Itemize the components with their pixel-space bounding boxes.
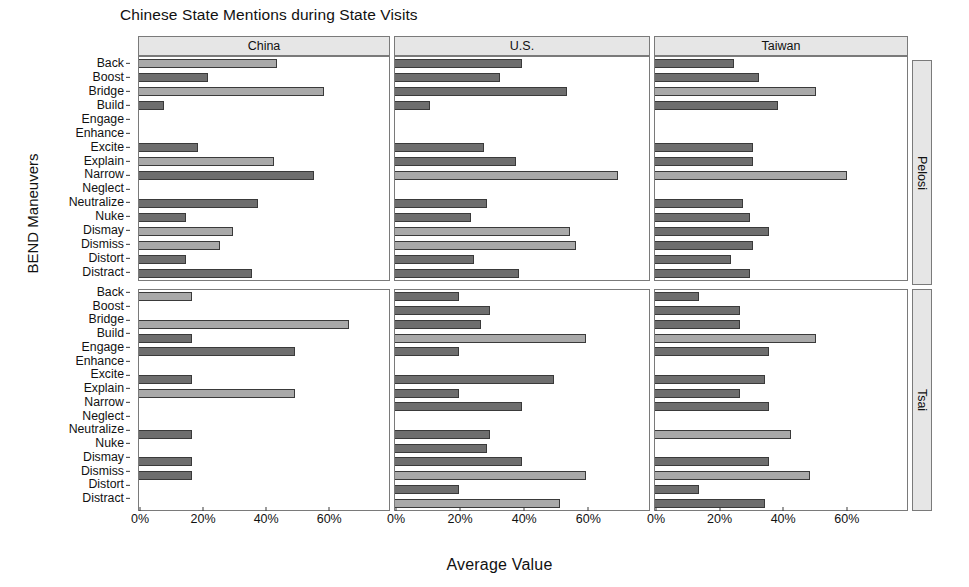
x-tick-mark [203,507,204,511]
y-tick-label: Bridge [88,313,124,325]
bar [395,375,554,384]
bar [139,241,220,250]
y-tick-labels-tsai: BackBoostBridgeBuildEngageEnhanceExciteE… [22,285,130,505]
x-tick-label: 40% [254,512,279,526]
y-tick-label: Neutralize [69,196,124,208]
y-tick-label: Excite [91,140,125,152]
x-axis-china: 0%20%40%60% [138,507,390,525]
bar [655,255,731,264]
bar [655,471,810,480]
facet-col-us-tsai [394,289,650,511]
y-tick-label: Distort [88,252,124,264]
y-tick-label: Build [97,327,124,339]
x-tick-label: 60% [576,512,601,526]
strip-label-tsai-text: Tsai [915,389,929,411]
facet-grid: China U.S. Taiwan Pelosi [138,36,932,511]
x-tick-mark [524,507,525,511]
bar [395,157,516,166]
bar [395,101,430,110]
y-tick-label: Build [97,99,124,111]
bar [139,87,324,96]
bar [655,227,769,236]
panel-china-tsai [138,289,390,511]
x-tick-mark [140,507,141,511]
bar [655,101,778,110]
bar [139,199,258,208]
bar [655,171,847,180]
right-strip-col-tsai: Tsai [912,289,932,511]
bar [395,59,522,68]
bar [395,255,474,264]
strip-label-us: U.S. [394,36,650,56]
y-tick-label: Enhance [75,354,124,366]
y-tick-label: Dismay [83,451,124,463]
y-tick-label: Narrow [84,396,124,408]
bar [395,227,570,236]
bar [395,171,618,180]
x-tick-mark [846,507,847,511]
panel-taiwan-pelosi [654,56,908,281]
panel-china-pelosi [138,56,390,281]
bar [655,430,791,439]
x-tick-mark [656,507,657,511]
x-tick-mark [588,507,589,511]
bar [139,157,274,166]
bar [655,143,753,152]
facet-row-pelosi: China U.S. Taiwan Pelosi [138,36,932,285]
bar [395,292,459,301]
bar [139,73,208,82]
y-tick-label: Bridge [88,85,124,97]
bar [139,347,295,356]
y-tick-label: Neglect [82,182,124,194]
y-tick-label: Back [97,57,124,69]
bar [395,457,522,466]
facet-col-china-pelosi: China [138,36,390,285]
bar [395,87,567,96]
bar [395,143,484,152]
bar [655,213,750,222]
bar [655,87,816,96]
bar [395,471,586,480]
bar [395,320,481,329]
y-tick-label: Explain [84,382,124,394]
panel-us-tsai [394,289,650,511]
bar [139,471,192,480]
y-tick-label: Narrow [84,168,124,180]
bar [655,199,743,208]
bar [655,485,699,494]
bar [139,389,295,398]
right-strip-spacer [912,36,932,60]
y-tick-label: Boost [93,299,124,311]
bar [655,375,765,384]
y-tick-label: Dismiss [81,464,124,476]
bar [139,101,164,110]
bar [139,171,314,180]
bar [655,292,699,301]
y-tick-label: Dismiss [81,238,124,250]
bar [395,444,487,453]
x-tick-mark [266,507,267,511]
bar [395,199,487,208]
y-tick-label: Boost [93,71,124,83]
bar [655,306,740,315]
x-axis-taiwan: 0%20%40%60% [654,507,908,525]
bar [395,334,586,343]
bar [139,320,349,329]
y-tick-label: Neutralize [69,423,124,435]
bar [655,457,769,466]
facet-col-china-tsai [138,289,390,511]
bar [395,485,459,494]
x-tick-mark [460,507,461,511]
y-tick-label: Explain [84,154,124,166]
x-axis-title: Average Value [0,556,969,574]
right-strip-col-pelosi: Pelosi [912,36,932,285]
x-tick-label: 40% [771,512,796,526]
x-axis-title-text: Average Value [416,556,552,573]
x-tick-mark [719,507,720,511]
bar [395,241,576,250]
strip-label-china: China [138,36,390,56]
x-tick-mark [783,507,784,511]
x-axis-us: 0%20%40%60% [394,507,650,525]
bar [395,213,471,222]
bar [139,457,192,466]
